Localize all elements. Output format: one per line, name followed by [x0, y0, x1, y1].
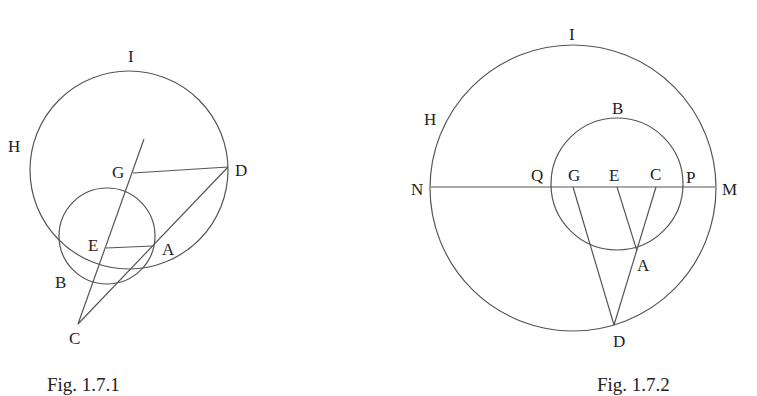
small-circle [59, 188, 155, 284]
label-h: H [424, 110, 436, 129]
geometry-diagrams: I H G D E A B C Fig. 1.7.1 I H B N Q G E… [0, 0, 757, 396]
label-q: Q [531, 166, 543, 185]
label-e: E [88, 236, 98, 255]
label-a: A [162, 240, 175, 259]
line-g-d [133, 167, 228, 173]
label-d: D [613, 332, 625, 351]
caption-fig-2: Fig. 1.7.2 [597, 374, 670, 395]
figure-1: I H G D E A B C Fig. 1.7.1 [8, 47, 247, 395]
label-g: G [568, 166, 580, 185]
label-e: E [609, 166, 619, 185]
label-n: N [411, 180, 423, 199]
line-c-d [614, 187, 656, 325]
label-b: B [55, 273, 66, 292]
label-i: I [569, 25, 575, 44]
line-e-a [617, 187, 637, 251]
caption-fig-1: Fig. 1.7.1 [47, 374, 120, 395]
label-b: B [612, 99, 623, 118]
label-g: G [112, 163, 124, 182]
line-e-a [106, 246, 153, 248]
label-d: D [235, 161, 247, 180]
figure-2: I H B N Q G E C P M A D Fig. 1.7.2 [411, 25, 737, 395]
label-p: P [686, 168, 695, 187]
line-c-through-e-g [78, 139, 144, 324]
line-c-d [78, 167, 228, 324]
label-i: I [128, 47, 134, 66]
label-c: C [69, 329, 80, 348]
label-a: A [637, 256, 650, 275]
label-c: C [650, 165, 661, 184]
label-m: M [722, 180, 737, 199]
label-h: H [8, 137, 20, 156]
line-g-d [573, 187, 614, 325]
